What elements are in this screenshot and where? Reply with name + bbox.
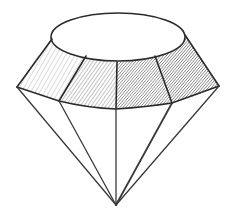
- diamond-sketch: Pencil sketch of a diamond: [0, 0, 236, 221]
- table-ellipse: [51, 13, 185, 61]
- diamond-drawing: [0, 0, 236, 221]
